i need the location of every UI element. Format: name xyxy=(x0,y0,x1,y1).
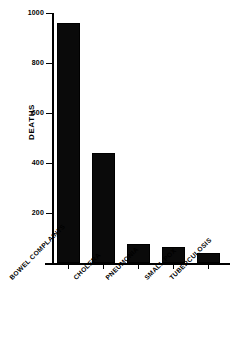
bar-chart-figure: DEATHS 1000 800 600 400 200 BOWEL COMPLA… xyxy=(0,0,245,343)
y-tick-label-800: 800 xyxy=(16,59,44,67)
bar-cholera xyxy=(92,153,115,263)
y-tick-label-200: 200 xyxy=(16,209,44,217)
y-tick-label-400: 400 xyxy=(16,159,44,167)
y-tick-1000 xyxy=(46,13,53,14)
y-tick-800 xyxy=(46,63,53,64)
x-tick-tuberculosis xyxy=(208,264,209,269)
x-tick-pneumonia xyxy=(138,264,139,269)
y-tick-label-600: 600 xyxy=(16,109,44,117)
y-tick-600 xyxy=(46,113,53,114)
y-tick-200 xyxy=(46,213,53,214)
y-axis-line xyxy=(52,13,54,264)
y-axis-label: DEATHS xyxy=(25,92,39,152)
x-tick-bowel-complaints xyxy=(68,264,69,269)
y-tick-label-1000: 1000 xyxy=(16,9,44,17)
y-tick-400 xyxy=(46,163,53,164)
x-tick-cholera xyxy=(103,264,104,269)
